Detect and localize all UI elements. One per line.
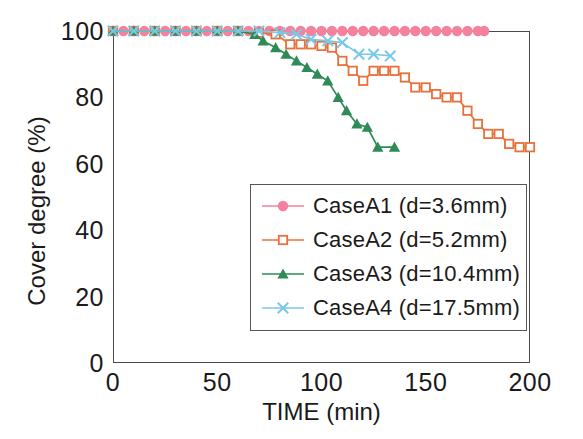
y-tick-label: 40: [75, 216, 104, 245]
chart-figure: 020406080100 Cover degree (%) TIME (min)…: [0, 0, 583, 439]
data-point-circle-filled: [389, 26, 399, 36]
data-point-circle-filled: [452, 26, 462, 36]
chart-legend: CaseA1 (d=3.6mm)CaseA2 (d=5.2mm)CaseA3 (…: [250, 184, 527, 331]
data-point-triangle-filled: [333, 92, 344, 102]
data-point-square-open: [369, 67, 377, 75]
data-point-circle-filled: [462, 26, 472, 36]
data-point-square-open: [505, 140, 513, 148]
data-point-square-open: [442, 93, 450, 101]
data-point-square-open: [463, 106, 471, 114]
series-line: [113, 31, 394, 147]
y-tick-label: 20: [75, 282, 104, 311]
data-point-square-open: [422, 83, 430, 91]
data-point-square-open: [411, 83, 419, 91]
series-2: [109, 27, 534, 152]
legend-item-2[interactable]: CaseA2 (d=5.2mm): [251, 223, 526, 257]
legend-item-3[interactable]: CaseA3 (d=10.4mm): [251, 257, 526, 291]
data-point-square-open: [338, 57, 346, 65]
data-point-circle-filled: [431, 26, 441, 36]
data-point-square-open: [286, 40, 294, 48]
data-point-square-open: [495, 130, 503, 138]
x-tick-label: 200: [508, 368, 551, 397]
legend-label: CaseA3 (d=10.4mm): [313, 261, 520, 287]
data-point-triangle-filled: [291, 55, 302, 65]
series-3: [107, 25, 400, 151]
data-point-square-open: [349, 67, 357, 75]
data-point-square-open: [432, 90, 440, 98]
data-point-square-open: [359, 77, 367, 85]
data-point-square-open: [453, 93, 461, 101]
legend-item-4[interactable]: CaseA4 (d=17.5mm): [251, 291, 526, 325]
x-tick-label: 0: [106, 368, 120, 397]
legend-marker-square-open-icon: [260, 230, 306, 250]
data-point-square-open: [401, 73, 409, 81]
y-tick-label: 100: [61, 17, 104, 46]
x-tick-label: 50: [203, 368, 232, 397]
data-point-square-open: [526, 143, 534, 151]
legend-item-1[interactable]: CaseA1 (d=3.6mm): [251, 189, 526, 223]
data-point-square-open: [380, 67, 388, 75]
data-point-circle-filled: [441, 26, 451, 36]
data-point-circle-filled: [410, 26, 420, 36]
data-point-circle-filled: [316, 26, 326, 36]
data-point-triangle-filled: [280, 49, 291, 59]
x-tick-label: 100: [300, 368, 343, 397]
legend-label: CaseA4 (d=17.5mm): [313, 295, 520, 321]
legend-label: CaseA1 (d=3.6mm): [313, 193, 508, 219]
legend-marker-cross-icon: [260, 298, 306, 318]
x-tick-label: 150: [404, 368, 447, 397]
data-point-circle-filled: [327, 26, 337, 36]
data-point-triangle-filled: [322, 75, 333, 85]
data-point-circle-filled: [278, 201, 288, 211]
x-axis-title: TIME (min): [113, 398, 530, 426]
y-tick-label: 0: [90, 349, 104, 378]
data-point-triangle-filled: [312, 69, 323, 79]
data-point-circle-filled: [479, 26, 489, 36]
data-point-circle-filled: [358, 26, 368, 36]
legend-label: CaseA2 (d=5.2mm): [313, 227, 508, 253]
data-point-triangle-filled: [270, 42, 281, 52]
data-point-triangle-filled: [341, 105, 352, 115]
data-point-square-open: [515, 143, 523, 151]
data-point-circle-filled: [421, 26, 431, 36]
data-point-triangle-filled: [301, 62, 312, 72]
data-point-square-open: [484, 130, 492, 138]
legend-marker-circle-filled-icon: [260, 196, 306, 216]
data-point-circle-filled: [337, 26, 347, 36]
data-point-circle-filled: [379, 26, 389, 36]
y-axis-tick-labels: 020406080100: [0, 0, 104, 439]
data-point-circle-filled: [348, 26, 358, 36]
y-axis-title: Cover degree (%): [23, 81, 51, 341]
data-point-square-open: [279, 236, 287, 244]
legend-marker-triangle-filled-icon: [260, 264, 306, 284]
y-tick-label: 60: [75, 149, 104, 178]
y-tick-label: 80: [75, 83, 104, 112]
data-point-square-open: [474, 120, 482, 128]
data-point-circle-filled: [368, 26, 378, 36]
data-point-square-open: [390, 67, 398, 75]
data-point-circle-filled: [400, 26, 410, 36]
data-point-square-open: [296, 40, 304, 48]
